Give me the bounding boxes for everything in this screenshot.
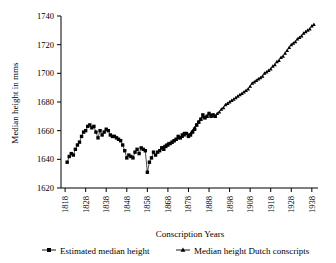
x-tick-label: 1838 [101, 196, 111, 213]
y-tick-label: 1660 [37, 126, 54, 136]
x-tick-label: 1848 [122, 196, 132, 213]
x-tick-label: 1818 [60, 196, 70, 213]
y-tick-label: 1740 [37, 11, 54, 21]
chart-canvas: 1620164016601680170017201740 18181828183… [0, 0, 336, 263]
y-tick-label: 1720 [37, 40, 54, 50]
x-tick-label: 1918 [266, 196, 276, 213]
x-axis-title: Conscription Years [156, 229, 225, 239]
x-tick-label: 1928 [286, 196, 296, 213]
x-tick-label: 1898 [225, 196, 235, 213]
y-tick-label: 1700 [37, 68, 54, 78]
x-tick-label: 1858 [142, 196, 152, 213]
x-tick-label: 1908 [245, 196, 255, 213]
x-tick-label: 1868 [163, 196, 173, 213]
legend-label: Median height Dutch conscripts [194, 246, 310, 256]
y-tick-label: 1640 [37, 154, 54, 164]
x-tick-label: 1888 [204, 196, 214, 213]
legend-label: Estimated median height [60, 246, 150, 256]
y-axis-title: Median height in mms [10, 62, 20, 144]
x-tick-label: 1878 [183, 196, 193, 213]
x-tick-label: 1828 [81, 196, 91, 213]
chart-figure: 1620164016601680170017201740 18181828183… [0, 0, 336, 263]
y-tick-label: 1680 [37, 97, 54, 107]
legend-item-2: Median height Dutch conscripts [176, 246, 310, 256]
y-tick-label: 1620 [37, 183, 54, 193]
x-tick-label: 1938 [307, 196, 317, 213]
